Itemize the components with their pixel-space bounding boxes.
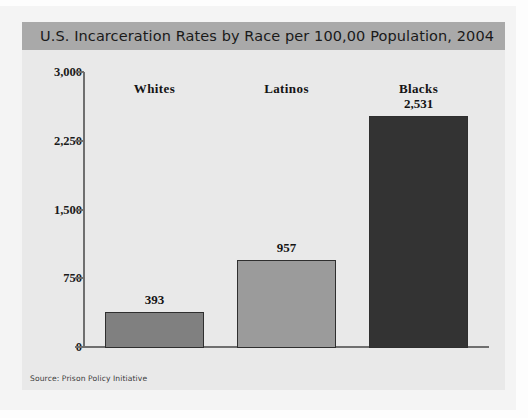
- bar-latinos[interactable]: 957: [237, 260, 336, 348]
- y-tick-mark: [75, 140, 84, 142]
- source-note: Source: Prison Policy Initiative: [30, 374, 147, 383]
- bar-group-blacks: 2,531Blacks: [352, 73, 484, 348]
- bar-value-label: 393: [106, 292, 203, 308]
- chart-title-bar: U.S. Incarceration Rates by Race per 100…: [22, 22, 505, 50]
- bar-value-label: 2,531: [370, 96, 467, 112]
- y-tick-mark: [75, 209, 84, 211]
- plot-area: 3,0002,2501,5007500 393Whites957Latinos2…: [22, 50, 505, 390]
- y-tick-mark: [75, 346, 84, 348]
- figure-page: U.S. Incarceration Rates by Race per 100…: [0, 0, 528, 418]
- x-category-label-whites: Whites: [105, 81, 204, 97]
- bar-blacks[interactable]: 2,531: [369, 116, 468, 348]
- bar-group-latinos: 957Latinos: [220, 73, 352, 348]
- x-category-label-latinos: Latinos: [237, 81, 336, 97]
- bar-value-label: 957: [238, 240, 335, 256]
- y-tick-mark: [75, 277, 84, 279]
- bar-whites[interactable]: 393: [105, 312, 204, 348]
- chart-title: U.S. Incarceration Rates by Race per 100…: [22, 28, 494, 44]
- bar-chart-figure: U.S. Incarceration Rates by Race per 100…: [22, 22, 505, 390]
- bar-group-whites: 393Whites: [88, 73, 220, 348]
- x-category-label-blacks: Blacks: [369, 81, 468, 97]
- y-tick-mark: [75, 71, 84, 73]
